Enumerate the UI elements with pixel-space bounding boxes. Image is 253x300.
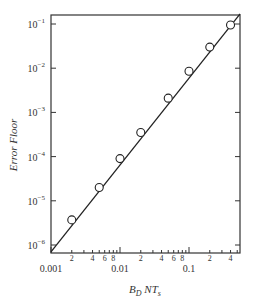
x-tick-label: 0.001 bbox=[40, 263, 63, 274]
data-point-marker bbox=[116, 155, 124, 163]
chart: 10−110−210−310−410−510−6 0.0010.010.1246… bbox=[0, 0, 253, 300]
x-minor-tick-label: 8 bbox=[180, 254, 184, 263]
x-tick-label: 0.01 bbox=[111, 263, 129, 274]
y-tick-label: 10−5 bbox=[28, 194, 46, 207]
y-tick-label: 10−4 bbox=[28, 150, 46, 163]
data-point-marker bbox=[164, 94, 172, 102]
y-axis-title: Error Floor bbox=[7, 118, 19, 172]
y-tick-label: 10−1 bbox=[28, 17, 46, 30]
x-minor-tick-label: 4 bbox=[229, 254, 233, 263]
x-tick-label: 0.1 bbox=[183, 263, 196, 274]
y-tick-label: 10−3 bbox=[28, 105, 46, 118]
x-minor-tick-label: 2 bbox=[70, 254, 74, 263]
data-series bbox=[51, 14, 240, 252]
x-minor-tick-label: 4 bbox=[91, 254, 95, 263]
x-minor-tick-label: 4 bbox=[160, 254, 164, 263]
x-minor-tick-label: 6 bbox=[103, 254, 107, 263]
x-axis-title: BD NTs bbox=[129, 283, 161, 298]
x-axis-ticks: 0.0010.010.12468246824 bbox=[40, 247, 237, 274]
data-point-marker bbox=[137, 129, 145, 137]
data-point-marker bbox=[185, 67, 193, 75]
data-point-marker bbox=[68, 216, 76, 224]
y-tick-label: 10−6 bbox=[28, 238, 46, 251]
x-minor-tick-label: 2 bbox=[208, 254, 212, 263]
y-tick-label: 10−2 bbox=[28, 61, 46, 74]
data-point-marker bbox=[227, 21, 235, 29]
x-minor-tick-label: 2 bbox=[139, 254, 143, 263]
x-minor-tick-label: 6 bbox=[172, 254, 176, 263]
y-axis-ticks: 10−110−210−310−410−510−6 bbox=[28, 17, 240, 251]
data-point-marker bbox=[95, 183, 103, 191]
data-point-marker bbox=[206, 43, 214, 51]
x-minor-tick-label: 8 bbox=[111, 254, 115, 263]
